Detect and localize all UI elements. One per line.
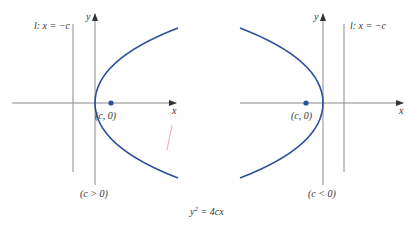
left-x-axis-label: x (171, 105, 177, 116)
right-directrix-label: l: x = −c (350, 20, 387, 31)
parabola-diagram: y x l: x = −c (c, 0) (c > 0) y x l: x = … (0, 0, 417, 226)
right-panel: y x l: x = −c (c, 0) (c < 0) (240, 11, 404, 200)
left-directrix-label: l: x = −c (34, 20, 71, 31)
right-condition-label: (c < 0) (308, 188, 337, 200)
right-y-axis-label: y (313, 11, 319, 22)
left-condition-label: (c > 0) (80, 188, 109, 200)
left-y-axis-label: y (85, 11, 91, 22)
left-focus-label: (c, 0) (95, 110, 117, 122)
equation-caption: y2 = 4cx (189, 205, 224, 217)
stray-mark (167, 125, 172, 150)
right-x-axis-label: x (398, 105, 404, 116)
left-focus-point (108, 100, 113, 105)
right-focus-point (303, 100, 308, 105)
left-panel: y x l: x = −c (c, 0) (c > 0) (12, 11, 178, 200)
caption-rest: = 4cx (198, 206, 224, 217)
right-focus-label: (c, 0) (291, 110, 313, 122)
